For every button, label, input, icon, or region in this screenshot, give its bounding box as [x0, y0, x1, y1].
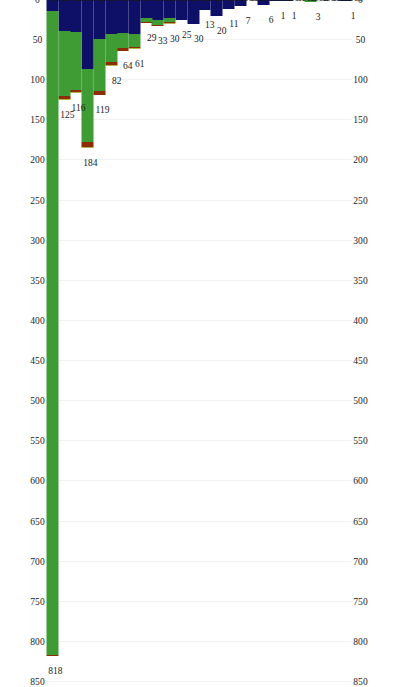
bar-stack [58, 0, 70, 100]
bar-row[interactable] [93, 0, 105, 682]
bar-stack [163, 0, 175, 24]
bar-row[interactable] [187, 0, 199, 682]
bar-stack [128, 0, 140, 49]
bar-stack [81, 0, 93, 148]
bar-stack [69, 0, 81, 93]
bar-segment-series-olive [128, 48, 140, 49]
bar-segment-series-olive [58, 99, 70, 100]
bar-segment-series-navy [81, 0, 93, 69]
bar-segment-series-green [151, 20, 163, 25]
bar-row[interactable] [234, 0, 246, 682]
bar-row[interactable] [339, 0, 351, 682]
bar-row[interactable] [128, 0, 140, 682]
bar-stack [187, 0, 199, 24]
bar-stack [93, 0, 105, 95]
bar-segment-series-navy [151, 0, 163, 20]
bar-segment-series-green [58, 31, 70, 96]
bar-row[interactable] [105, 0, 117, 682]
bar-stack [140, 0, 152, 23]
bar-segment-series-darkred [163, 22, 175, 24]
bar-segment-series-green [116, 33, 128, 48]
bar-segment-series-green [93, 39, 105, 91]
bar-row[interactable] [292, 0, 304, 682]
bar-segment-series-darkred [116, 48, 128, 50]
bar-segment-series-navy [128, 0, 140, 34]
bar-segment-series-green [69, 32, 81, 90]
bar-value-label: 818 [40, 666, 62, 676]
bar-row[interactable] [58, 0, 70, 682]
bar-row[interactable] [222, 0, 234, 682]
bar-stack [46, 0, 58, 656]
bar-segment-series-olive [163, 23, 175, 24]
plot-area: 1198919901991319921993119941199561996199… [46, 0, 351, 682]
bar-row[interactable] [175, 0, 187, 682]
bar-segment-series-darkred [151, 25, 163, 27]
bar-row[interactable] [163, 0, 175, 682]
bar-segment-series-green [163, 18, 175, 22]
bar-stack [175, 0, 187, 20]
bar-segment-series-olive [81, 147, 93, 148]
bar-segment-series-darkred [46, 656, 58, 657]
bar-row[interactable] [280, 0, 292, 682]
bar-row[interactable] [116, 0, 128, 682]
value-axis-bottom: 8508007507006506005505004504003503002502… [351, 0, 397, 682]
bar-segment-series-navy [93, 0, 105, 39]
bar-row[interactable] [151, 0, 163, 682]
bar-row[interactable] [327, 0, 339, 682]
bar-segment-series-darkred [93, 91, 105, 94]
bar-row[interactable] [316, 0, 328, 682]
bar-stack [105, 0, 117, 66]
bar-row[interactable] [140, 0, 152, 682]
bar-segment-series-navy [116, 0, 128, 33]
bar-row[interactable] [210, 0, 222, 682]
bar-segment-series-navy [69, 0, 81, 32]
bar-segment-series-navy [105, 0, 117, 34]
bar-segment-series-olive [116, 51, 128, 52]
bar-segment-series-green [105, 34, 117, 62]
bar-segment-series-darkred [81, 142, 93, 147]
bar-segment-series-olive [105, 65, 117, 66]
bar-stack [116, 0, 128, 51]
bar-row[interactable] [304, 0, 316, 682]
bar-segment-series-navy [187, 0, 199, 24]
bar-row[interactable] [245, 0, 257, 682]
bar-row[interactable] [257, 0, 269, 682]
bar-segment-series-olive [93, 95, 105, 96]
bar-segment-series-darkred [58, 96, 70, 99]
bar-segment-series-darkred [69, 90, 81, 92]
bar-stack [151, 0, 163, 26]
bar-segment-series-navy [175, 0, 187, 20]
bar-row[interactable] [46, 0, 58, 682]
bar-row[interactable] [269, 0, 281, 682]
bar-segment-series-green [128, 34, 140, 47]
bar-segment-series-green [46, 11, 58, 655]
value-axis-top: 8508007507006506005505004504003503002502… [0, 0, 46, 682]
bar-segment-series-darkred [105, 62, 117, 65]
bar-segment-series-darkred [140, 22, 152, 23]
bar-segment-series-navy [58, 0, 70, 31]
bar-segment-series-darkred [128, 47, 140, 49]
category-label-2014: 2014 [51, 0, 70, 3]
bar-segment-series-green [140, 18, 152, 23]
bar-row[interactable] [198, 0, 210, 682]
bar-segment-series-olive [69, 92, 81, 93]
